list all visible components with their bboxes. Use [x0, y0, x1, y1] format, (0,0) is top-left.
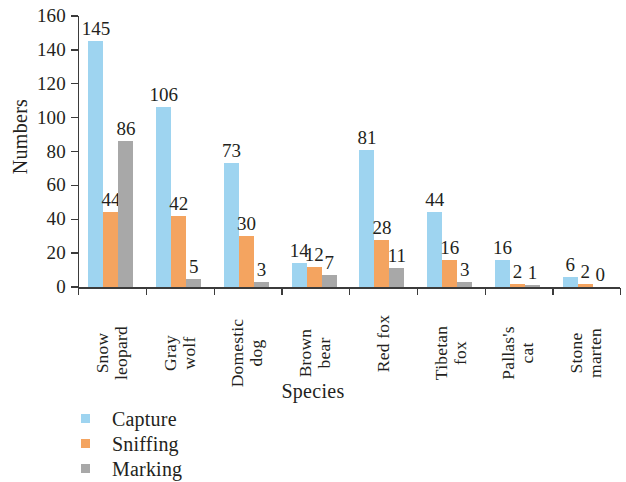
bar-value-label: 16 [482, 238, 522, 257]
chart-legend: CaptureSniffingMarking [78, 406, 182, 481]
bar-value-label: 145 [76, 19, 116, 38]
x-axis-tick-mark [78, 288, 79, 295]
bar-value-label: 44 [415, 190, 455, 209]
x-axis-tick-mark [552, 288, 553, 295]
bar [322, 275, 337, 287]
legend-item-label: Marking [112, 458, 182, 480]
bar-value-label: 11 [377, 246, 417, 265]
bar-value-label: 5 [174, 257, 214, 276]
bar-chart: 020406080100120140160 Numbers 1454486106… [0, 0, 626, 482]
bar-value-label: 73 [211, 141, 251, 160]
bar [171, 216, 186, 287]
legend-swatch-icon [81, 464, 90, 473]
legend-item: Marking [78, 456, 182, 481]
bar-value-label: 7 [309, 253, 349, 272]
bar [88, 41, 103, 287]
x-axis-category-label: Red fox [373, 296, 392, 392]
plot-area: 1454486106425733031412781281144163162162… [0, 0, 626, 287]
legend-item: Sniffing [78, 431, 182, 456]
bar-value-label: 30 [226, 214, 266, 233]
legend-swatch-icon [81, 414, 90, 423]
x-axis-tick-mark [620, 288, 621, 295]
x-axis-tick-mark [146, 288, 147, 295]
bar-value-label: 0 [580, 265, 620, 284]
x-axis-tick-mark [214, 288, 215, 295]
bar-value-label: 86 [106, 119, 146, 138]
bar [292, 263, 307, 287]
bar-value-label: 3 [445, 260, 485, 279]
x-axis-tick-mark [349, 288, 350, 295]
bar [118, 141, 133, 287]
x-axis-tick-mark [417, 288, 418, 295]
bar-value-label: 1 [512, 263, 552, 282]
x-axis-title: Species [0, 380, 626, 403]
legend-swatch-icon [81, 439, 90, 448]
bar [186, 279, 201, 287]
bar-value-label: 42 [159, 194, 199, 213]
x-axis-tick-mark [485, 288, 486, 295]
bar-value-label: 16 [430, 238, 470, 257]
bar [389, 268, 404, 287]
bar-value-label: 81 [347, 128, 387, 147]
legend-item-label: Capture [112, 408, 177, 430]
legend-item: Capture [78, 406, 182, 431]
legend-item-label: Sniffing [112, 433, 179, 455]
bar-value-label: 3 [241, 260, 281, 279]
bar [103, 212, 118, 287]
x-axis-tick-mark [281, 288, 282, 295]
bar-value-label: 28 [362, 218, 402, 237]
bar-value-label: 106 [144, 85, 184, 104]
